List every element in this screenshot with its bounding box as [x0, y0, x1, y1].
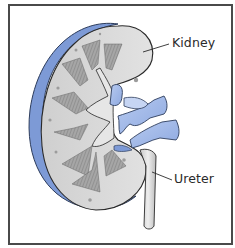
kidney-label: Kidney: [172, 37, 215, 50]
ureter-label: Ureter: [174, 173, 214, 186]
